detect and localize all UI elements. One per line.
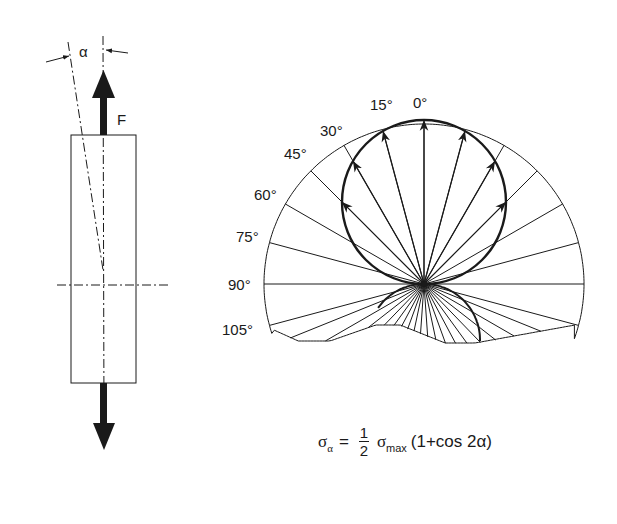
ray-line — [270, 284, 425, 325]
angle-label-105: 105° — [222, 321, 253, 338]
stress-vector-arrow — [354, 162, 425, 284]
angle-label-15: 15° — [370, 96, 393, 113]
formula-fraction: 1 2 — [359, 425, 369, 458]
ray-line — [424, 284, 496, 340]
stress-vector-arrow — [424, 132, 465, 284]
fraction-numerator: 1 — [360, 425, 368, 440]
angle-label-75: 75° — [236, 228, 259, 245]
force-label: F — [117, 111, 126, 128]
ray-line — [424, 243, 579, 284]
formula-lhs-sub: α — [327, 442, 333, 454]
fraction-denominator: 2 — [360, 443, 368, 458]
ray-line — [424, 284, 579, 325]
stress-vector-arrow — [424, 203, 505, 284]
formula-equals: = — [339, 432, 349, 452]
formula-rest: (1+cos 2α) — [411, 432, 492, 452]
pole-point — [421, 281, 427, 287]
force-arrow-down — [93, 383, 115, 450]
stress-vector-arrow — [343, 203, 424, 284]
tension-bar-diagram: α F — [46, 36, 168, 450]
angle-label-0: 0° — [413, 94, 427, 111]
stress-vector-arrow — [424, 162, 495, 284]
stress-formula: σα = 1 2 σmax (1+cos 2α) — [318, 425, 492, 458]
inclined-section-line — [68, 42, 103, 270]
angle-label-45: 45° — [284, 145, 307, 162]
polar-stress-diagram — [264, 120, 584, 343]
angle-alpha-label: α — [79, 43, 88, 60]
formula-sigma-max-sub: max — [386, 442, 407, 454]
stress-diagram: α F 0° 15° 30° 45° 60° 75° 90° 105° — [0, 0, 617, 524]
angle-dim-arrow-right — [106, 50, 128, 53]
angle-label-90: 90° — [228, 276, 251, 293]
force-arrow-up — [92, 70, 115, 135]
angle-dim-arrow-left — [46, 56, 69, 62]
formula-lhs-sigma: σ — [318, 432, 327, 452]
formula-sigma-max: σ — [377, 432, 386, 452]
angle-label-30: 30° — [320, 122, 343, 139]
ray-line — [270, 243, 425, 284]
angle-label-60: 60° — [254, 186, 277, 203]
stress-vector-arrow — [383, 132, 424, 284]
angle-labels: 0° 15° 30° 45° 60° 75° 90° 105° — [222, 94, 427, 338]
ray-line — [384, 284, 424, 325]
